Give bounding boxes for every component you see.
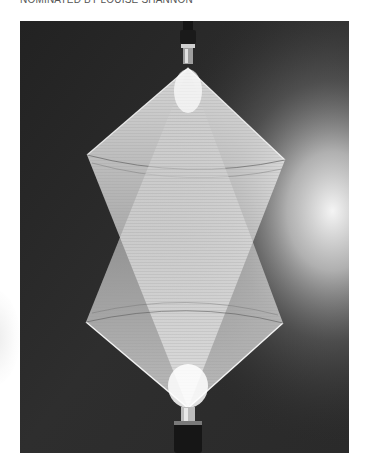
nominated-by-caption: NOMINATED BY LOUISE SHANNON <box>20 0 193 5</box>
top-highlight <box>174 69 202 113</box>
bottom-highlight <box>168 364 208 408</box>
sculpture-illustration <box>20 21 349 453</box>
margin-glow-decoration <box>0 290 20 385</box>
sculpture-photograph <box>20 21 349 453</box>
